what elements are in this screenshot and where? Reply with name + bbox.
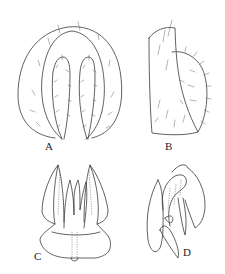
panel-c-aedeagus: [64, 180, 87, 228]
panel-label-c: C: [34, 251, 41, 262]
panel-c-median-strut: [72, 232, 77, 258]
panel-a-drawing: [18, 22, 122, 139]
panel-a-left-lobe: [52, 57, 70, 139]
panel-d-ventral-lobe: [147, 180, 163, 252]
panel-c-drawing: [40, 165, 110, 261]
panel-c-apodeme: [71, 258, 78, 261]
panel-a-right-lobe: [79, 57, 95, 139]
panel-d-curved-process: [162, 175, 186, 226]
panel-d-dorsal-lobe: [172, 165, 205, 228]
panel-d-drawing: [147, 165, 205, 258]
figure-drawing: [0, 0, 225, 274]
panel-d-inner-rod: [178, 198, 186, 235]
panel-b-setae: [155, 20, 211, 127]
panel-label-a: A: [45, 141, 53, 152]
panel-label-b: B: [165, 141, 172, 152]
panel-b-drawing: [149, 20, 211, 135]
panel-c-basal-line: [52, 232, 100, 235]
panel-c-outer-sclerite: [40, 165, 110, 258]
panel-label-d: D: [183, 247, 191, 258]
panel-b-basal-plate: [149, 27, 198, 134]
